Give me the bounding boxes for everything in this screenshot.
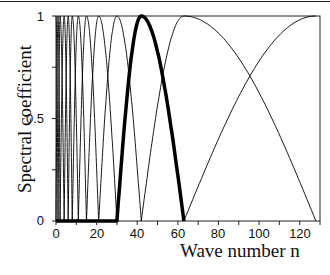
y-tick-0-5: 0.5	[18, 111, 44, 126]
x-tick-120: 120	[285, 226, 315, 241]
tick-marks	[52, 16, 320, 225]
x-tick-100: 100	[244, 226, 274, 241]
curves-group	[56, 16, 316, 221]
y-tick-1: 1	[18, 9, 44, 24]
x-tick-60: 60	[163, 226, 193, 241]
x-tick-80: 80	[203, 226, 233, 241]
window-curve	[184, 16, 316, 221]
window-curve	[141, 16, 316, 221]
x-tick-40: 40	[122, 226, 152, 241]
x-axis-label: Wave number n	[180, 240, 300, 262]
highlighted-window-curve	[56, 16, 184, 221]
y-tick-0: 0	[18, 213, 44, 228]
x-tick-20: 20	[82, 226, 112, 241]
plot-frame	[56, 16, 320, 221]
x-tick-0: 0	[41, 226, 71, 241]
